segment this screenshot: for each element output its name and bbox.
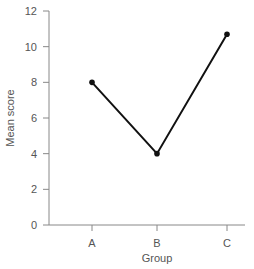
- y-tick-label: 12: [25, 5, 37, 17]
- x-ticks: ABC: [88, 225, 231, 249]
- x-axis-label: Group: [142, 252, 173, 264]
- x-axis: ABC: [49, 225, 245, 249]
- y-tick-label: 10: [25, 41, 37, 53]
- x-tick-label: A: [88, 237, 96, 249]
- y-axis-label: Mean score: [4, 89, 16, 146]
- data-point-marker: [154, 151, 160, 157]
- data-series: [89, 31, 230, 156]
- x-tick-label: C: [223, 237, 231, 249]
- series-line: [92, 34, 227, 153]
- data-point-marker: [89, 80, 95, 86]
- y-tick-label: 2: [31, 183, 37, 195]
- data-point-marker: [224, 31, 230, 37]
- y-axis: 024681012: [25, 5, 49, 231]
- y-tick-label: 6: [31, 112, 37, 124]
- x-tick-label: B: [153, 237, 160, 249]
- y-tick-label: 8: [31, 76, 37, 88]
- y-tick-label: 0: [31, 219, 37, 231]
- line-chart: 024681012 ABC Mean score Group: [0, 0, 254, 269]
- y-ticks: 024681012: [25, 5, 49, 231]
- y-tick-label: 4: [31, 148, 37, 160]
